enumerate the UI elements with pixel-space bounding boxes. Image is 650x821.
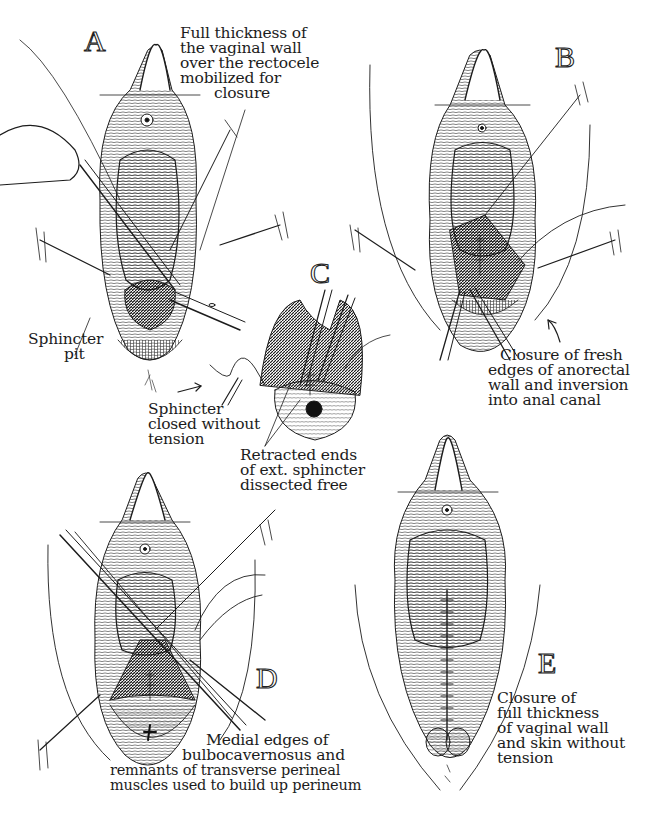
label-retracted-ends: Retracted ends of ext. sphincter dissect… — [240, 448, 365, 493]
caption-line: into anal canal — [488, 393, 630, 408]
caption-panel-a: Full thickness of the vaginal wall over … — [180, 26, 319, 101]
panel-letter-d: D — [256, 663, 278, 693]
caption-line: tension — [497, 751, 625, 766]
panel-d-drawing — [38, 473, 275, 770]
caption-line: closure — [180, 86, 319, 101]
caption-panel-c: Sphincter closed without tension — [148, 402, 260, 447]
caption-line: bulbocavernosus and — [110, 748, 360, 763]
panel-letter-b: B — [555, 42, 575, 72]
panel-letter-c: C — [310, 258, 330, 288]
caption-line: muscles used to build up perineum — [110, 778, 360, 793]
caption-panel-d: Medial edges of bulbocavernosus and remn… — [110, 733, 360, 793]
caption-line: tension — [148, 432, 260, 447]
panel-b-drawing — [350, 50, 625, 360]
label-sphincter-pit: Sphincter pit — [28, 332, 103, 362]
caption-panel-e: Closure of full thickness of vaginal wal… — [497, 691, 625, 766]
label-line: dissected free — [240, 478, 365, 493]
panel-letter-e: E — [538, 648, 556, 678]
caption-panel-b: Closure of fresh edges of anorectal wall… — [488, 348, 630, 408]
panel-letter-a: A — [84, 26, 106, 56]
caption-line: remnants of transverse perineal — [110, 763, 360, 778]
label-line: pit — [28, 347, 103, 362]
